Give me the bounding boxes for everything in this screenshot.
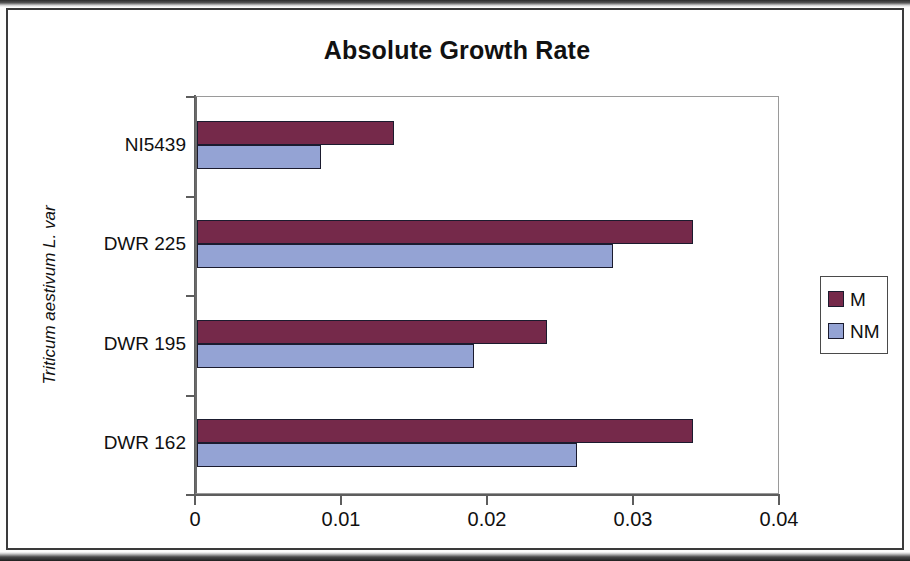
bar-m — [197, 320, 547, 344]
x-axis-tick-label: 0 — [189, 508, 200, 531]
chart-frame: selected for other from the results Abso… — [6, 8, 904, 550]
chart-legend: M NM — [820, 276, 888, 354]
bar-group — [197, 396, 778, 496]
bar-nm — [197, 244, 613, 268]
category-label: NI5439 — [26, 134, 186, 156]
bar-m — [197, 121, 394, 145]
category-label: DWR 162 — [26, 432, 186, 454]
category-axis-labels: DWR 162DWR 195DWR 225NI5439 — [18, 96, 186, 494]
bar-group — [197, 197, 778, 297]
x-axis-tick-label: 0.01 — [322, 508, 361, 531]
x-axis-tick-label: 0.04 — [760, 508, 799, 531]
y-axis-tick — [186, 196, 195, 198]
bar-group — [197, 97, 778, 197]
x-axis-tick — [778, 496, 780, 505]
chart-title: Absolute Growth Rate — [8, 36, 906, 65]
scan-page-edge-top — [0, 0, 910, 7]
x-axis-tick — [486, 496, 488, 505]
legend-label-nm: NM — [850, 322, 880, 341]
y-axis-tick — [186, 96, 195, 98]
y-axis-tick — [186, 295, 195, 297]
bar-group — [197, 296, 778, 396]
legend-swatch-m — [828, 291, 844, 307]
bar-m — [197, 419, 693, 443]
x-axis-tick — [194, 496, 196, 505]
legend-item-m: M — [828, 283, 887, 315]
x-axis-tick — [340, 496, 342, 505]
legend-label-m: M — [850, 290, 866, 309]
bar-m — [197, 220, 693, 244]
scan-page-edge-bottom — [0, 552, 910, 561]
x-axis-tick-label: 0.03 — [614, 508, 653, 531]
screenshot-root: selected for other from the results Abso… — [0, 0, 910, 561]
bar-nm — [197, 344, 474, 368]
plot-area — [195, 96, 779, 494]
bar-nm — [197, 443, 577, 467]
y-axis-tick — [186, 395, 195, 397]
x-axis-tick — [632, 496, 634, 505]
category-label: DWR 225 — [26, 233, 186, 255]
category-label: DWR 195 — [26, 333, 186, 355]
x-axis-tick-label: 0.02 — [468, 508, 507, 531]
bar-nm — [197, 145, 321, 169]
legend-swatch-nm — [828, 323, 844, 339]
legend-item-nm: NM — [828, 315, 887, 347]
